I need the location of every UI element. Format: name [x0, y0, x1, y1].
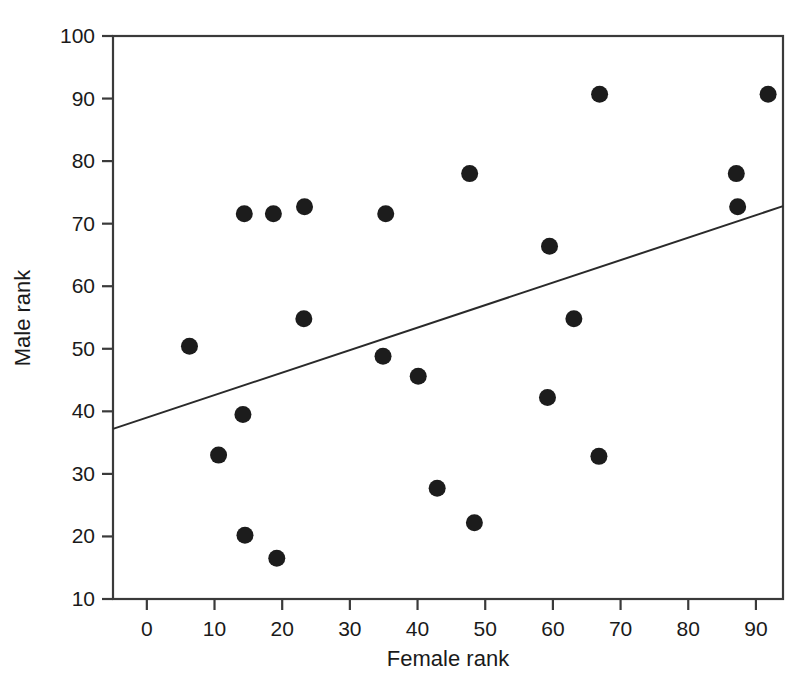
data-point [565, 310, 582, 327]
chart-canvas: 102030405060708090100 010203040506070809… [0, 0, 808, 697]
y-axis-ticks [102, 36, 113, 599]
data-point [591, 86, 608, 103]
y-tick-label: 40 [72, 399, 95, 422]
x-tick-label: 30 [338, 617, 361, 640]
data-point [265, 205, 282, 222]
scatter-plot-figure: 102030405060708090100 010203040506070809… [0, 0, 808, 697]
x-axis-title: Female rank [387, 646, 510, 671]
data-point [296, 198, 313, 215]
y-axis-tick-labels: 102030405060708090100 [60, 24, 95, 610]
data-point [590, 448, 607, 465]
data-point [377, 205, 394, 222]
y-tick-label: 90 [72, 87, 95, 110]
data-point [295, 310, 312, 327]
data-point [236, 527, 253, 544]
data-point [268, 550, 285, 567]
data-point [410, 368, 427, 385]
x-tick-label: 70 [609, 617, 632, 640]
data-point [236, 205, 253, 222]
x-tick-label: 40 [406, 617, 429, 640]
y-tick-label: 30 [72, 462, 95, 485]
y-tick-label: 60 [72, 274, 95, 297]
data-point [729, 198, 746, 215]
data-point-series [181, 86, 777, 567]
y-tick-label: 80 [72, 149, 95, 172]
y-tick-label: 100 [60, 24, 95, 47]
x-tick-label: 80 [677, 617, 700, 640]
x-tick-label: 60 [541, 617, 564, 640]
data-point [375, 348, 392, 365]
regression-trend-line [113, 206, 783, 429]
x-axis-tick-labels: 0102030405060708090 [141, 617, 768, 640]
x-tick-label: 90 [744, 617, 767, 640]
data-point [760, 86, 777, 103]
x-tick-label: 50 [474, 617, 497, 640]
data-point [429, 480, 446, 497]
data-point [210, 447, 227, 464]
y-tick-label: 10 [72, 587, 95, 610]
data-point [466, 514, 483, 531]
x-tick-label: 20 [271, 617, 294, 640]
y-tick-label: 50 [72, 337, 95, 360]
data-point [728, 165, 745, 182]
y-tick-label: 70 [72, 212, 95, 235]
data-point [461, 165, 478, 182]
y-tick-label: 20 [72, 524, 95, 547]
data-point [539, 389, 556, 406]
data-point [541, 238, 558, 255]
y-axis-title: Male rank [10, 269, 35, 367]
x-tick-label: 0 [141, 617, 153, 640]
x-tick-label: 10 [203, 617, 226, 640]
data-point [181, 338, 198, 355]
x-axis-ticks [147, 599, 756, 610]
data-point [234, 406, 251, 423]
